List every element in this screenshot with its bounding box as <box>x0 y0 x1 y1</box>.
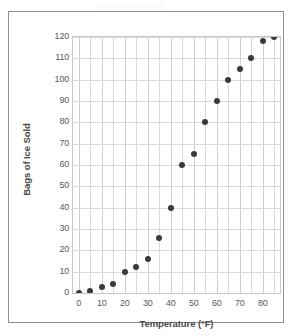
gridline-horizontal <box>73 208 280 209</box>
y-axis-ticks: 0102030405060708090100110120 <box>33 36 69 294</box>
plot-canvas <box>73 37 280 293</box>
y-tick-label: 10 <box>35 267 69 276</box>
data-point <box>145 256 151 262</box>
gridline-horizontal <box>73 144 280 145</box>
y-tick-label: 20 <box>35 245 69 254</box>
chart-figure: 0102030405060708090100110120 01020304050… <box>0 0 292 336</box>
gridline-horizontal <box>73 165 280 166</box>
gridline-horizontal <box>73 229 280 230</box>
data-point <box>271 36 277 40</box>
data-point <box>76 290 82 294</box>
y-tick-label: 80 <box>35 117 69 126</box>
data-point <box>214 98 220 104</box>
y-tick-label: 50 <box>35 181 69 190</box>
scan-artifact <box>96 2 166 9</box>
gridline-horizontal <box>73 101 280 102</box>
y-tick-label: 100 <box>35 75 69 84</box>
gridline-horizontal <box>73 272 280 273</box>
x-axis-ticks: 01020304050607080 <box>72 299 281 313</box>
chart-frame: 0102030405060708090100110120 01020304050… <box>8 11 284 323</box>
data-point <box>122 269 128 275</box>
y-tick-label: 90 <box>35 96 69 105</box>
y-tick-label: 60 <box>35 160 69 169</box>
data-point <box>202 119 208 125</box>
plot-area <box>72 36 281 294</box>
data-point <box>260 38 266 44</box>
y-axis-title: Bags of Ice Sold <box>21 100 32 220</box>
data-point <box>99 284 105 290</box>
y-tick-label: 70 <box>35 139 69 148</box>
data-point <box>156 235 162 241</box>
gridline-horizontal <box>73 293 280 294</box>
gridline-horizontal <box>73 186 280 187</box>
data-point <box>248 55 254 61</box>
y-tick-label: 0 <box>35 288 69 297</box>
gridline-horizontal <box>73 37 280 38</box>
x-tick-label: 80 <box>248 299 278 308</box>
data-point <box>110 281 116 287</box>
gridline-horizontal <box>73 122 280 123</box>
data-point <box>225 77 231 83</box>
gridline-horizontal <box>73 250 280 251</box>
data-point <box>133 264 139 270</box>
y-tick-label: 110 <box>35 53 69 62</box>
data-point <box>179 162 185 168</box>
gridline-horizontal <box>73 80 280 81</box>
y-tick-label: 30 <box>35 224 69 233</box>
y-tick-label: 40 <box>35 203 69 212</box>
x-axis-title: Temperature (°F) <box>72 318 281 329</box>
y-tick-label: 120 <box>35 32 69 41</box>
data-point <box>237 66 243 72</box>
data-point <box>191 151 197 157</box>
data-point <box>168 205 174 211</box>
